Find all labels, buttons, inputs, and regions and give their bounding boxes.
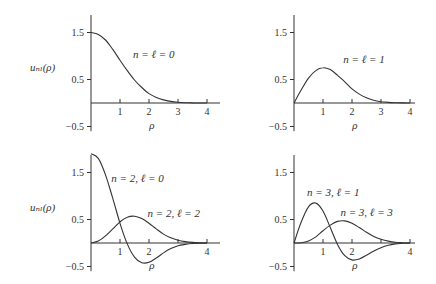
curve-annotation: n = ℓ = 1 xyxy=(343,53,384,65)
y-tick-label: 0.5 xyxy=(275,74,288,85)
x-tick-label: 1 xyxy=(118,106,123,117)
y-tick-label: −0.5 xyxy=(66,261,84,272)
y-tick-label: 0.5 xyxy=(72,74,85,85)
x-tick-label: 3 xyxy=(379,106,384,117)
x-tick-label: 2 xyxy=(350,106,355,117)
y-tick-label: 0.5 xyxy=(275,214,288,225)
y-tick-label: 1.5 xyxy=(72,167,85,178)
x-tick-label: 2 xyxy=(350,246,355,257)
y-tick-label: −0.5 xyxy=(269,121,287,132)
x-tick-label: 2 xyxy=(147,246,152,257)
series-curve xyxy=(91,33,207,104)
radial-wavefunction-figure: 1.50.5−0.51234ρuₙₗ(ρ)n = ℓ = 01.50.5−0.5… xyxy=(0,0,436,284)
x-axis-label: ρ xyxy=(351,119,357,131)
x-tick-label: 4 xyxy=(408,106,413,117)
series-curve xyxy=(294,68,410,103)
x-tick-label: 3 xyxy=(176,106,181,117)
x-tick-label: 4 xyxy=(408,246,413,257)
x-tick-label: 4 xyxy=(205,246,210,257)
curve-annotation: n = 3, ℓ = 3 xyxy=(340,206,393,218)
y-tick-label: 1.5 xyxy=(275,167,288,178)
y-axis-label: uₙₗ(ρ) xyxy=(30,201,56,214)
y-tick-label: 1.5 xyxy=(275,27,288,38)
x-tick-label: 2 xyxy=(147,106,152,117)
x-tick-label: 1 xyxy=(321,106,326,117)
x-axis-label: ρ xyxy=(351,259,357,271)
curve-annotation: n = 3, ℓ = 1 xyxy=(307,186,359,198)
curve-annotation: n = 2, ℓ = 0 xyxy=(111,172,164,184)
x-axis-label: ρ xyxy=(148,119,154,131)
x-tick-label: 1 xyxy=(321,246,326,257)
y-tick-label: −0.5 xyxy=(269,261,287,272)
x-tick-label: 4 xyxy=(205,106,210,117)
y-tick-label: 1.5 xyxy=(72,27,85,38)
y-axis-label: uₙₗ(ρ) xyxy=(30,61,56,74)
y-tick-label: 0.5 xyxy=(72,214,85,225)
y-tick-label: −0.5 xyxy=(66,121,84,132)
x-tick-label: 1 xyxy=(118,246,123,257)
curve-annotation: n = 2, ℓ = 2 xyxy=(148,207,201,219)
curve-annotation: n = ℓ = 0 xyxy=(133,48,175,60)
series-curve xyxy=(91,216,207,243)
